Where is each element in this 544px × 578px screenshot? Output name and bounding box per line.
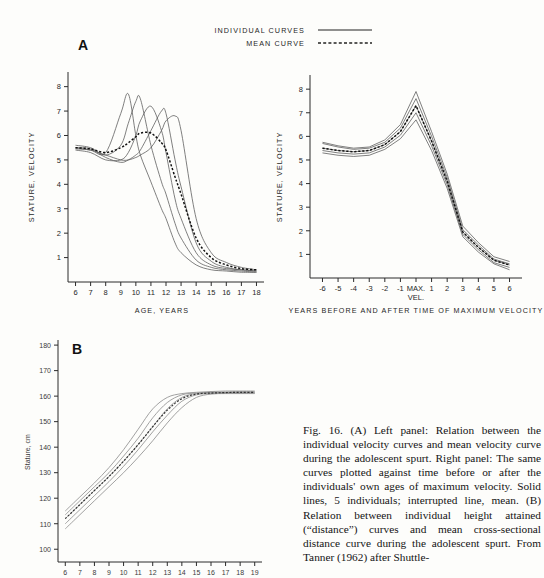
panel-b-letter: B [72,341,82,357]
x-tick-label: 10 [120,569,128,576]
y-tick-label: 3 [57,205,61,214]
individual-curve [322,92,509,262]
y-tick-label: 1 [57,253,61,262]
x-tick-label: 19 [251,569,259,576]
x-tick-label: 6 [507,284,511,293]
panel-b-ylabel: Stature, cm [24,434,31,470]
y-tick-label: 150 [39,418,51,425]
y-tick-label: 2 [299,227,303,236]
x-tick-label: 16 [207,569,215,576]
panel-a-right-yticks: 12345678 [299,85,310,259]
individual-curve [65,393,254,524]
y-tick-label: 7 [57,107,61,116]
individual-curve [322,113,509,268]
x-tick-label: 17 [237,288,245,297]
y-tick-label: 180 [39,342,51,349]
x-tick-label: 6 [63,569,67,576]
y-tick-label: 2 [57,229,61,238]
panel-a-left-xlabel: AGE, YEARS [135,306,189,315]
x-tick-label: 14 [178,569,186,576]
x-tick-label: -1 [397,284,404,293]
x-tick-label: 9 [119,288,123,297]
legend: INDIVIDUAL CURVES MEAN CURVE [214,26,372,48]
x-tick-label: -4 [350,284,357,293]
y-tick-label: 160 [39,393,51,400]
individual-curve [322,99,509,264]
panel-b-axes [58,340,262,562]
y-tick-label: 100 [39,546,51,553]
individual-curve [76,93,257,272]
x-tick-label: -2 [381,284,388,293]
x-tick-label: 9 [107,569,111,576]
y-tick-label: 1 [299,250,303,259]
y-tick-label: 8 [299,85,303,94]
y-tick-label: 110 [40,521,51,528]
x-tick-label: 18 [236,569,244,576]
x-tick-label: 16 [222,288,230,297]
mean-curve [322,106,509,265]
panel-a-right-chart: 12345678 -6-5-4-3-2-1MAX.VEL.123456 YEAR… [275,75,543,315]
x-tick-label: 7 [89,288,93,297]
y-tick-label: 7 [299,109,303,118]
panel-a-left-series [76,93,257,272]
x-tick-label: 12 [149,569,157,576]
y-tick-label: 5 [57,156,61,165]
y-tick-label: 3 [299,203,303,212]
panel-a-left-xticks: 6789101112131415161718 [73,282,260,297]
y-tick-label: 8 [57,82,61,91]
x-tick-label: 17 [222,569,230,576]
individual-curve [76,108,257,271]
panel-a-left-axes [68,72,264,282]
individual-curve [65,392,254,518]
x-tick-label: -5 [335,284,342,293]
x-tick-label: -3 [366,284,373,293]
x-tick-label: 8 [92,569,96,576]
y-tick-label: 6 [299,132,303,141]
panel-a-letter: A [78,37,88,53]
panel-a-right-series [322,92,509,270]
panel-a-right-xlabel: YEARS BEFORE AND AFTER TIME OF MAXIMUM V… [289,306,544,315]
x-tick-label: 15 [207,288,215,297]
individual-curve [76,95,257,272]
x-tick-label: 18 [252,288,260,297]
y-tick-label: 170 [39,367,51,374]
y-tick-label: 4 [299,179,303,188]
y-tick-label: 5 [299,156,303,165]
x-tick-label: 13 [177,288,185,297]
panel-b-yticks: 100110120130140150160170180 [39,342,58,553]
x-tick-label: 7 [78,569,82,576]
individual-curve [76,116,257,270]
figure-caption: Fig. 16. (A) Left panel: Relation betwee… [303,423,541,564]
x-tick-label: 6 [73,288,77,297]
x-tick-label: MAX. [407,284,425,293]
x-tick-label: 5 [492,284,496,293]
x-tick-label: 3 [461,284,465,293]
individual-curve [65,394,254,529]
y-tick-label: 4 [57,180,61,189]
panel-a-left-chart: A 12345678 6789101112131415161718 AGE, Y… [27,37,264,315]
x-tick-label: -6 [319,284,326,293]
x-tick-label: 15 [193,569,201,576]
x-tick-label: VEL. [408,293,424,302]
x-tick-label: 14 [192,288,200,297]
panel-a-right-ylabel: STATURE, VELOCITY [275,132,284,223]
individual-curve [322,120,509,270]
legend-individual-label: INDIVIDUAL CURVES [214,26,305,35]
x-tick-label: 12 [162,288,170,297]
individual-curve [322,106,509,265]
x-tick-label: 11 [135,569,142,576]
legend-mean-label: MEAN CURVE [246,39,305,48]
mean-curve [65,392,254,518]
y-tick-label: 140 [39,444,51,451]
panel-b-series [65,391,254,529]
x-tick-label: 10 [132,288,140,297]
panel-b-chart: B 100110120130140150160170180 6789101112… [24,340,262,576]
panel-a-right-xticks: -6-5-4-3-2-1MAX.VEL.123456 [319,278,511,302]
individual-curve [76,106,257,271]
x-tick-label: 4 [476,284,480,293]
x-tick-label: 2 [445,284,449,293]
x-tick-label: 11 [147,288,155,297]
x-tick-label: 1 [430,284,434,293]
x-tick-label: 13 [163,569,171,576]
panel-b-xticks: 678910111213141516171819 [63,562,258,576]
